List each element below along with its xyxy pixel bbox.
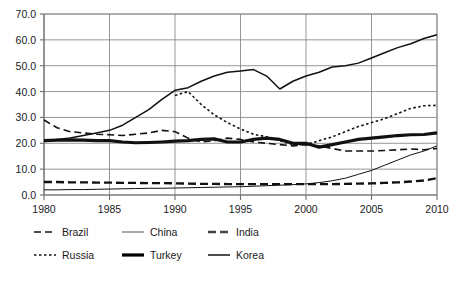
legend-label-turkey: Turkey: [150, 249, 182, 261]
x-tick-label: 2000: [294, 203, 318, 215]
line-chart: 0.010.020.030.040.050.060.070.0198019851…: [0, 0, 469, 282]
y-tick-label: 70.0: [16, 8, 37, 20]
y-tick-label: 30.0: [16, 111, 37, 123]
legend-label-china: China: [150, 226, 178, 238]
x-tick-label: 1990: [163, 203, 187, 215]
y-tick-label: 40.0: [16, 86, 37, 98]
legend-label-india: India: [236, 226, 259, 238]
y-tick-label: 10.0: [16, 163, 37, 175]
x-tick-label: 1985: [98, 203, 122, 215]
x-tick-label: 2005: [360, 203, 384, 215]
chart-canvas: 0.010.020.030.040.050.060.070.0198019851…: [0, 0, 469, 282]
legend-label-brazil: Brazil: [62, 226, 88, 238]
legend-label-korea: Korea: [236, 249, 264, 261]
y-tick-label: 20.0: [16, 137, 37, 149]
x-tick-label: 1980: [32, 203, 56, 215]
x-tick-label: 2010: [425, 203, 449, 215]
y-tick-label: 50.0: [16, 60, 37, 72]
y-tick-label: 60.0: [16, 34, 37, 46]
y-tick-label: 0.0: [21, 189, 36, 201]
x-tick-label: 1995: [229, 203, 253, 215]
legend-label-russia: Russia: [62, 249, 94, 261]
